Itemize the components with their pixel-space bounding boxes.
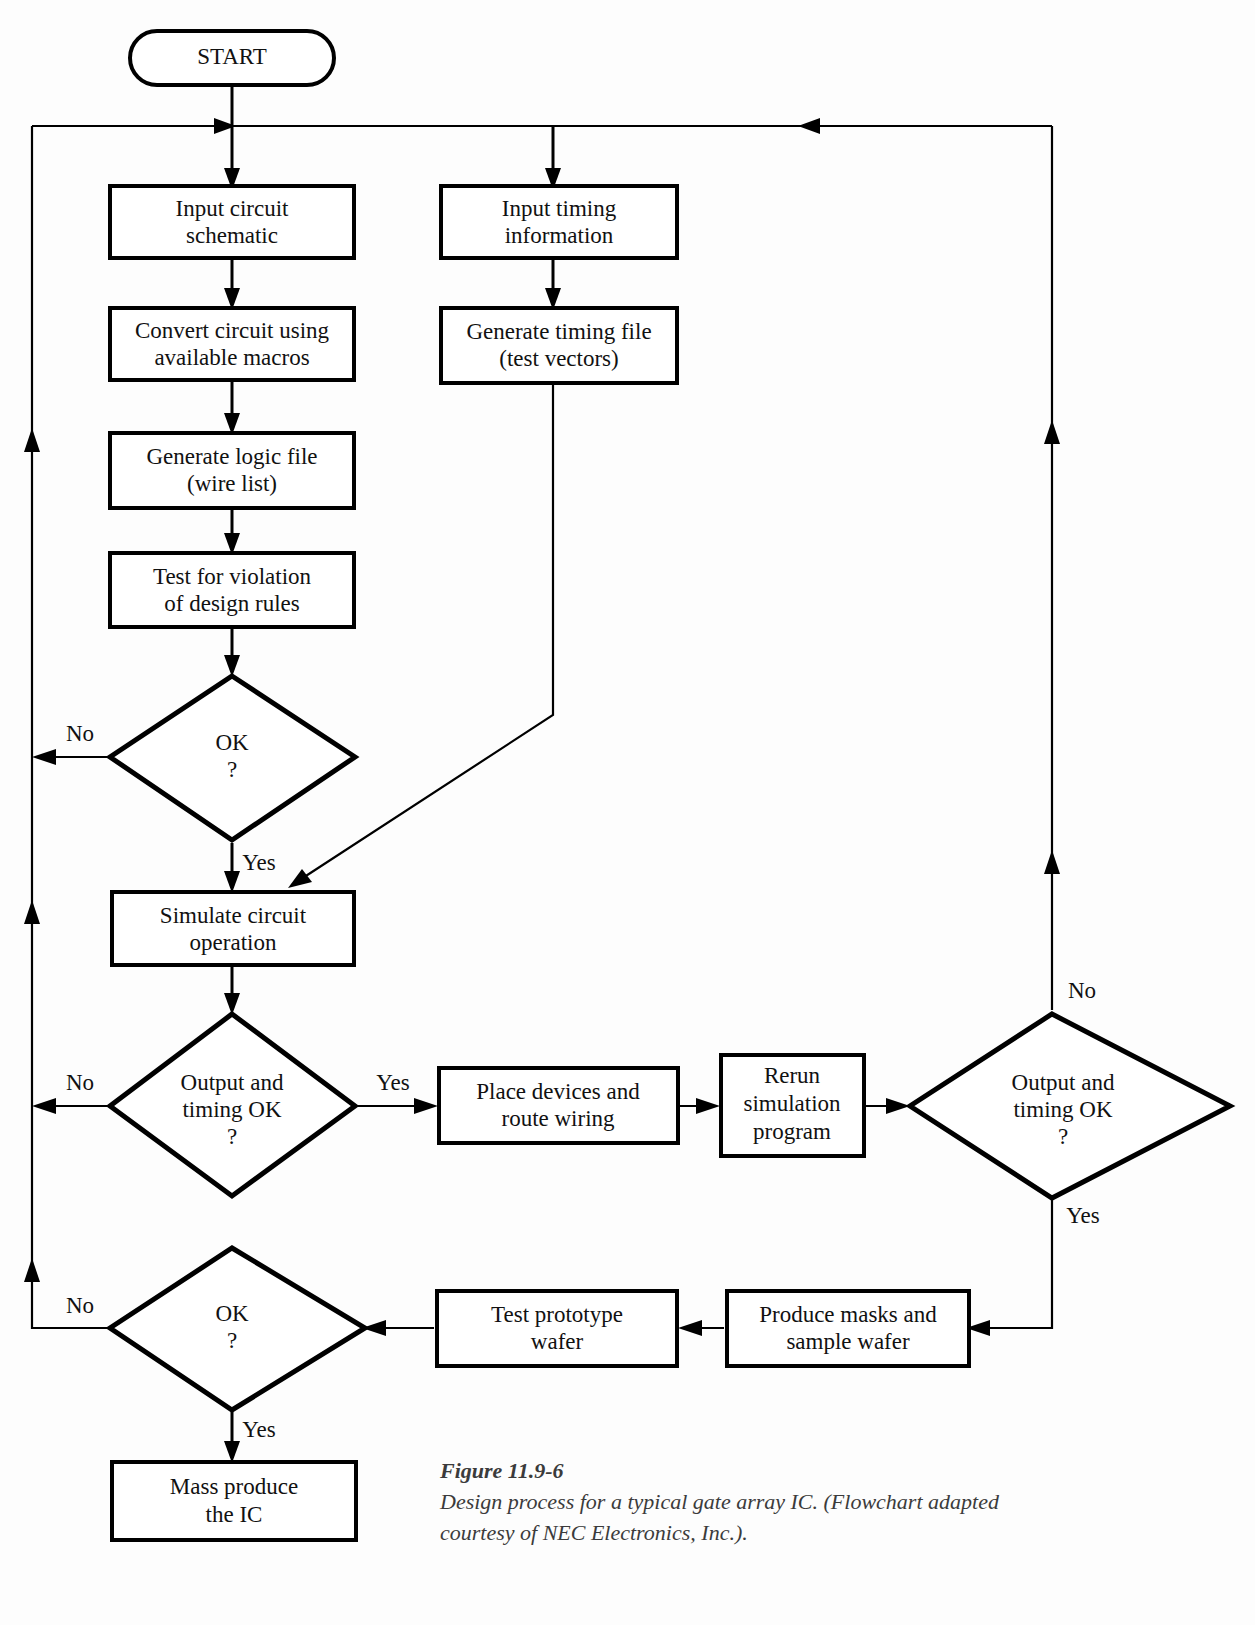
output-timing-ok-2-line2: timing OK [1013,1097,1112,1122]
arrowhead-bus-from-right-loop [798,118,820,134]
branch-label-ok1-yes: Yes [242,850,276,875]
arrowhead-out1-no [32,1098,56,1114]
branch-label-out2-yes: Yes [1066,1203,1100,1228]
generate-logic-file-line1: Generate logic file [146,444,317,469]
input-circuit-schematic-line2: schematic [186,223,278,248]
node-simulate-circuit[interactable]: Simulate circuit operation [112,892,354,965]
node-output-timing-ok-1[interactable]: Output and timing OK ? [110,1014,355,1196]
node-start[interactable]: START [130,31,334,85]
test-violation-line2: of design rules [164,591,299,616]
node-output-timing-ok-2[interactable]: Output and timing OK ? [910,1014,1230,1198]
branch-label-out2-no: No [1068,978,1096,1003]
simulate-circuit-line2: operation [190,930,277,955]
mass-produce-line1: Mass produce [170,1474,298,1499]
test-violation-line1: Test for violation [153,564,312,589]
arrowhead-left-loop-lower [24,1258,40,1282]
flowchart-canvas: START Input circuit schematic Input timi… [0,0,1255,1625]
output-timing-ok-1-line1: Output and [181,1070,284,1095]
convert-circuit-line2: available macros [154,345,309,370]
test-prototype-line1: Test prototype [491,1302,623,1327]
arrowhead-right-loop-upper [1044,420,1060,444]
output-timing-ok-2-line1: Output and [1012,1070,1115,1095]
output-timing-ok-1-line2: timing OK [182,1097,281,1122]
generate-timing-file-line2: (test vectors) [499,346,618,371]
produce-masks-line2: sample wafer [786,1329,910,1354]
rerun-simulation-line2: simulation [743,1091,841,1116]
arrowhead-out1-yes [414,1098,438,1114]
node-place-devices[interactable]: Place devices and route wiring [439,1068,678,1143]
arrowhead-ok1-no [32,749,56,765]
branch-label-ok1-no: No [66,721,94,746]
node-ok-decision-1[interactable]: OK ? [110,676,355,840]
input-timing-information-line1: Input timing [502,196,617,221]
node-input-circuit-schematic[interactable]: Input circuit schematic [110,186,354,258]
node-mass-produce[interactable]: Mass produce the IC [112,1462,356,1540]
branch-label-out1-yes: Yes [376,1070,410,1095]
input-timing-information-line2: information [505,223,614,248]
arrowhead-produce-masks-to-test [678,1320,702,1336]
arrowhead-ok1-yes [224,871,240,893]
rerun-simulation-line1: Rerun [764,1063,821,1088]
arrowhead-ok2-yes [224,1441,240,1463]
figure-number: Figure 11.9-6 [440,1455,1000,1486]
arrowhead-place-devices-to-rerun [696,1098,720,1114]
branch-label-out1-no: No [66,1070,94,1095]
figure-caption: Figure 11.9-6 Design process for a typic… [440,1455,1000,1548]
node-ok-decision-2[interactable]: OK ? [110,1248,365,1410]
arrowhead-right-loop-lower [1044,850,1060,874]
figure-page: START Input circuit schematic Input timi… [0,0,1255,1625]
place-devices-line1: Place devices and [476,1079,640,1104]
place-devices-line2: route wiring [501,1106,615,1131]
convert-circuit-line1: Convert circuit using [135,318,330,343]
arrowhead-left-loop-mid [24,900,40,924]
arrowhead-timing-file-to-simulate [288,869,312,888]
start-label: START [197,44,267,69]
node-produce-masks[interactable]: Produce masks and sample wafer [727,1291,969,1366]
connector-out2-yes-to-produce-masks [972,1200,1052,1328]
mass-produce-line2: the IC [206,1502,263,1527]
node-input-timing-information[interactable]: Input timing information [441,186,677,258]
produce-masks-line1: Produce masks and [759,1302,937,1327]
node-generate-timing-file[interactable]: Generate timing file (test vectors) [441,308,677,383]
input-circuit-schematic-line1: Input circuit [175,196,289,221]
connector-ok2-no-to-left-loop [32,1318,110,1328]
figure-caption-text: Design process for a typical gate array … [440,1486,1000,1548]
arrowhead-left-loop-upper [24,428,40,452]
output-timing-ok-2-line3: ? [1058,1124,1068,1149]
simulate-circuit-line1: Simulate circuit [160,903,307,928]
ok-decision-2-line1: OK [215,1301,249,1326]
generate-timing-file-line1: Generate timing file [466,319,651,344]
ok-decision-1-line1: OK [215,730,249,755]
branch-label-ok2-yes: Yes [242,1417,276,1442]
node-test-prototype[interactable]: Test prototype wafer [437,1291,677,1366]
rerun-simulation-line3: program [753,1119,831,1144]
branch-label-ok2-no: No [66,1293,94,1318]
output-timing-ok-1-line3: ? [227,1124,237,1149]
test-prototype-line2: wafer [531,1329,584,1354]
ok-decision-1-line2: ? [227,757,237,782]
node-rerun-simulation[interactable]: Rerun simulation program [721,1055,864,1156]
ok-decision-2-line2: ? [227,1328,237,1353]
node-test-violation[interactable]: Test for violation of design rules [110,553,354,627]
generate-logic-file-line2: (wire list) [187,471,277,496]
node-convert-circuit[interactable]: Convert circuit using available macros [110,308,354,380]
node-generate-logic-file[interactable]: Generate logic file (wire list) [110,433,354,508]
ok-decision-2-shape [110,1248,365,1410]
